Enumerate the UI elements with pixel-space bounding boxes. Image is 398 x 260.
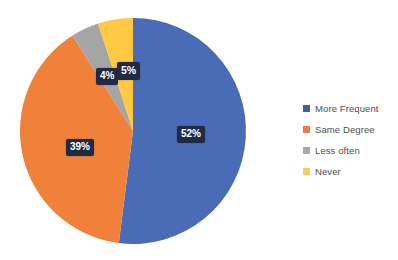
legend-item-label: More Frequent xyxy=(315,103,379,114)
legend-item-less-often[interactable]: Less often xyxy=(303,140,395,161)
legend-swatch-icon xyxy=(303,126,310,133)
legend-item-same-degree[interactable]: Same Degree xyxy=(303,119,395,140)
legend-swatch-icon xyxy=(303,168,310,175)
data-label-less-often: 4% xyxy=(96,68,118,85)
legend-item-label: Less often xyxy=(315,145,360,156)
data-label-same-degree: 39% xyxy=(66,139,94,156)
data-label-never: 5% xyxy=(117,62,140,80)
legend-item-label: Never xyxy=(315,166,341,177)
legend-swatch-icon xyxy=(303,105,310,112)
legend-item-never[interactable]: Never xyxy=(303,161,395,182)
chart-legend: More Frequent Same Degree Less often Nev… xyxy=(303,98,395,182)
pie-chart: 52% 39% 4% 5% More Frequent Same Degree … xyxy=(0,0,398,260)
data-label-more-frequent: 52% xyxy=(177,126,205,143)
legend-item-label: Same Degree xyxy=(315,124,375,135)
legend-swatch-icon xyxy=(303,147,310,154)
legend-item-more-frequent[interactable]: More Frequent xyxy=(303,98,395,119)
